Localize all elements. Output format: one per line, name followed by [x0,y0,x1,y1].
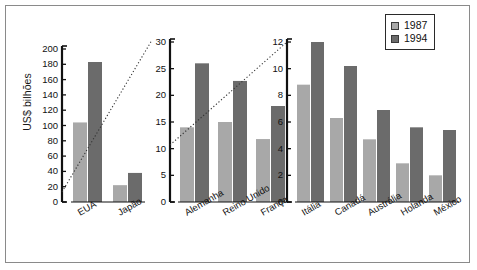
y-tick-label-3-12: 12 [253,37,283,47]
y-tick-label-1-0: 0 [28,197,58,207]
y-tick-label-3-2: 2 [253,170,283,180]
bar-itália-1987 [297,85,310,202]
y-tick-label-2-0: 0 [136,197,166,207]
y-tick-label-1-160: 160 [28,75,58,85]
bar-itália-1994 [311,42,324,202]
bar-canadá-1987 [330,118,343,202]
y-tick-label-3-4: 4 [253,144,283,154]
y-tick-label-3-6: 6 [253,117,283,127]
plot-area [0,0,477,270]
y-tick-label-2-5: 5 [136,170,166,180]
y-tick-label-2-20: 20 [136,90,166,100]
bar-holanda-1994 [410,127,423,202]
y-tick-label-2-30: 30 [136,37,166,47]
y-tick-label-2-25: 25 [136,64,166,74]
y-tick-label-1-20: 20 [28,182,58,192]
y-tick-label-1-100: 100 [28,121,58,131]
bar-austrália-1994 [377,110,390,202]
chart-figure: US$ bilhões 1987 1994 020406080100120140… [0,0,477,270]
y-tick-label-1-200: 200 [28,44,58,54]
y-tick-label-3-0: 0 [253,197,283,207]
y-tick-label-1-40: 40 [28,166,58,176]
y-tick-label-1-120: 120 [28,105,58,115]
y-tick-label-1-80: 80 [28,136,58,146]
bar-eua-1994 [88,62,102,202]
bar-austrália-1987 [363,139,376,202]
bar-méxico-1994 [443,130,456,202]
y-tick-label-1-140: 140 [28,90,58,100]
y-tick-label-3-8: 8 [253,90,283,100]
bar-alemanha-1994 [195,63,209,202]
bar-japão-1987 [113,185,127,202]
y-tick-label-1-60: 60 [28,151,58,161]
bar-canadá-1994 [344,66,357,202]
y-tick-label-1-180: 180 [28,59,58,69]
bar-alemanha-1987 [180,127,194,202]
y-tick-label-2-10: 10 [136,144,166,154]
y-tick-label-3-10: 10 [253,64,283,74]
bar-reino-unido-1994 [233,81,247,202]
y-tick-label-2-15: 15 [136,117,166,127]
